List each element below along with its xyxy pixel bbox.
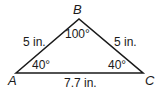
side-label-bc: 5 in.	[114, 36, 137, 48]
angle-label-a: 40°	[32, 59, 50, 71]
vertex-label-a: A	[8, 74, 17, 87]
vertex-label-b: B	[73, 3, 82, 16]
vertex-label-c: C	[145, 74, 154, 87]
angle-label-b: 100°	[65, 28, 90, 40]
triangle-diagram: B A C 5 in. 5 in. 7.7 in. 100° 40° 40°	[0, 0, 163, 96]
side-label-ac: 7.7 in.	[64, 77, 97, 89]
side-label-ab: 5 in.	[23, 36, 46, 48]
angle-label-c: 40°	[108, 59, 126, 71]
